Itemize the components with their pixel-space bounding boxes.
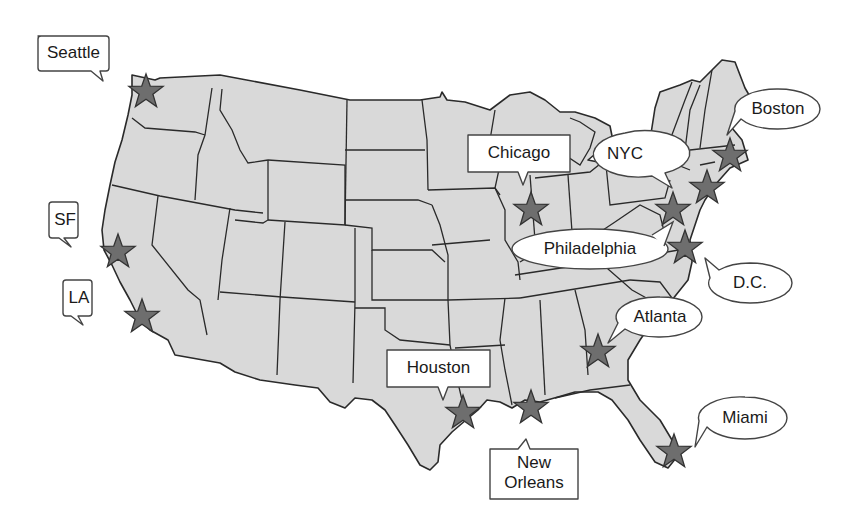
label-new-orleans: New Orleans: [490, 453, 578, 493]
label-sf: SF: [49, 210, 81, 230]
label-houston: Houston: [387, 358, 490, 378]
label-chicago: Chicago: [468, 143, 570, 163]
label-la: LA: [63, 288, 95, 308]
us-outline: [102, 60, 752, 470]
label-nyc: NYC: [590, 144, 660, 164]
label-new-orleans-line2: Orleans: [490, 473, 578, 493]
label-philadelphia: Philadelphia: [512, 239, 668, 259]
label-atlanta: Atlanta: [618, 307, 702, 327]
label-new-orleans-line1: New: [490, 453, 578, 473]
label-seattle: Seattle: [38, 43, 109, 63]
land: [102, 60, 752, 470]
label-dc: D.C.: [708, 273, 792, 293]
label-miami: Miami: [703, 408, 787, 428]
label-boston: Boston: [736, 99, 820, 119]
us-map: [0, 0, 851, 524]
